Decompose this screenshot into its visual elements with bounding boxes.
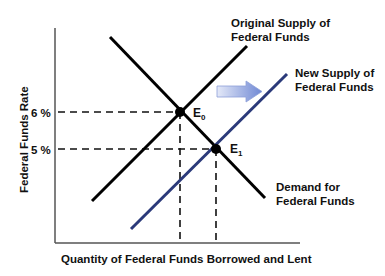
tick-6pct: 6 % — [31, 107, 51, 119]
equilibrium-point-e0 — [175, 107, 185, 117]
original-supply-label-line2: Federal Funds — [231, 31, 310, 43]
demand-label-line2: Federal Funds — [276, 195, 355, 207]
new-supply-curve — [131, 74, 287, 229]
original-supply-curve — [92, 46, 247, 201]
equilibrium-point-e1 — [211, 144, 221, 154]
e0-label: E0 — [193, 106, 206, 122]
new-supply-label-line1: New Supply of — [295, 67, 374, 79]
supply-demand-diagram: E0 E1 6 % 5 % Original Supply of Federal… — [0, 0, 385, 276]
shift-arrow-icon — [217, 81, 262, 102]
e1-label: E1 — [230, 142, 243, 158]
new-supply-label-line2: Federal Funds — [295, 81, 374, 93]
tick-5pct: 5 % — [31, 144, 51, 156]
x-axis-title: Quantity of Federal Funds Borrowed and L… — [61, 253, 312, 265]
demand-label-line1: Demand for — [276, 181, 340, 193]
original-supply-label-line1: Original Supply of — [231, 17, 330, 29]
y-axis-title: Federal Funds Rate — [18, 86, 30, 193]
